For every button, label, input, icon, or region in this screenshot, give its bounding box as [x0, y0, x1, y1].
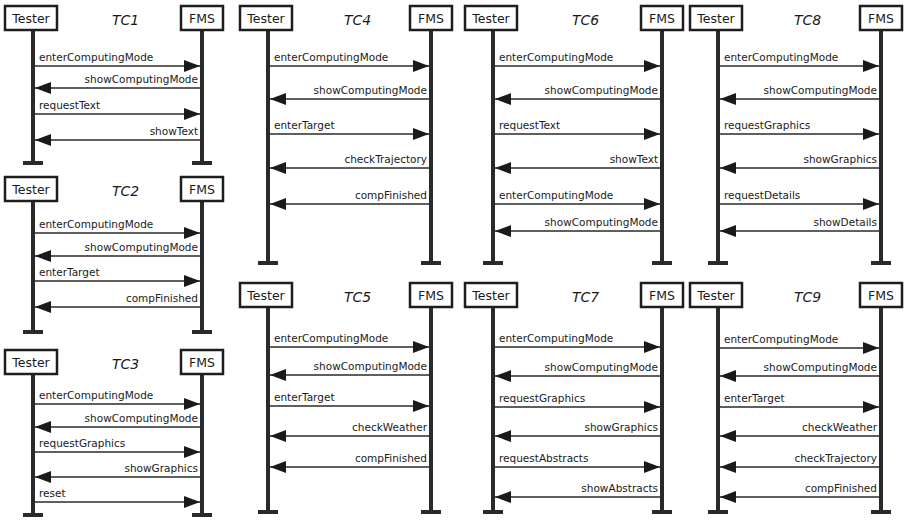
fms-participant-label: FMS — [189, 11, 215, 26]
arrowhead-right-icon — [644, 401, 660, 413]
message-label: showComputingMode — [85, 241, 198, 253]
message-label: enterComputingMode — [39, 218, 153, 230]
message-check-trajectory: checkTrajectory — [720, 452, 879, 473]
sequence-diagram-tc3: TesterFMSTC3enterComputingModeshowComput… — [5, 350, 223, 515]
message-label: requestDetails — [724, 189, 800, 201]
message-label: enterComputingMode — [499, 189, 613, 201]
sequence-diagram-tc1: TesterFMSTC1enterComputingModeshowComput… — [5, 6, 223, 163]
message-check-weather: checkWeather — [270, 421, 429, 442]
message-label: requestGraphics — [39, 437, 125, 449]
message-label: showComputingMode — [545, 84, 658, 96]
sequence-diagram-tc4: TesterFMSTC4enterComputingModeshowComput… — [240, 6, 452, 263]
arrowhead-right-icon — [863, 128, 879, 140]
message-check-weather: checkWeather — [720, 421, 879, 442]
arrowhead-right-icon — [644, 341, 660, 353]
fms-participant-label: FMS — [418, 11, 444, 26]
arrowhead-right-icon — [863, 198, 879, 210]
message-show-computing-mode: showComputingMode — [270, 84, 429, 105]
message-label: compFinished — [805, 482, 877, 494]
arrowhead-left-icon — [35, 82, 51, 94]
message-label: enterComputingMode — [39, 389, 153, 401]
arrowhead-right-icon — [644, 198, 660, 210]
message-label: showText — [610, 153, 658, 165]
diagram-title: TC7 — [572, 289, 599, 305]
message-enter-computing-mode: enterComputingMode — [495, 51, 660, 72]
diagram-title: TC5 — [344, 289, 371, 305]
tester-participant-label: Tester — [11, 11, 50, 26]
message-comp-finished: compFinished — [270, 452, 429, 473]
message-request-graphics: requestGraphics — [495, 392, 660, 413]
message-label: enterComputingMode — [39, 51, 153, 63]
message-show-text: showText — [35, 125, 200, 146]
fms-participant-label: FMS — [649, 288, 675, 303]
message-label: showGraphics — [803, 153, 877, 165]
message-label: compFinished — [355, 452, 427, 464]
arrowhead-right-icon — [184, 275, 200, 287]
message-label: compFinished — [126, 292, 198, 304]
arrowhead-right-icon — [184, 446, 200, 458]
message-label: enterTarget — [274, 119, 335, 131]
message-label: enterComputingMode — [724, 333, 838, 345]
diagram-title: TC4 — [344, 12, 371, 28]
tester-participant-label: Tester — [11, 182, 50, 197]
arrowhead-left-icon — [270, 461, 286, 473]
diagram-title: TC8 — [794, 12, 821, 28]
message-label: showComputingMode — [314, 360, 427, 372]
arrowhead-left-icon — [720, 461, 736, 473]
message-label: enterComputingMode — [499, 51, 613, 63]
arrowhead-left-icon — [35, 471, 51, 483]
sequence-diagram-tc2: TesterFMSTC2enterComputingModeshowComput… — [5, 177, 223, 332]
message-label: showComputingMode — [764, 84, 877, 96]
fms-participant-label: FMS — [868, 288, 894, 303]
message-label: showComputingMode — [314, 84, 427, 96]
arrowhead-left-icon — [35, 301, 51, 313]
message-enter-target: enterTarget — [720, 392, 879, 413]
message-show-graphics: showGraphics — [720, 153, 879, 174]
diagram-title: TC2 — [112, 183, 139, 199]
arrowhead-left-icon — [495, 370, 511, 382]
message-show-computing-mode: showComputingMode — [35, 73, 200, 94]
message-show-computing-mode: showComputingMode — [720, 84, 879, 105]
message-enter-computing-mode: enterComputingMode — [35, 51, 200, 72]
arrowhead-left-icon — [720, 430, 736, 442]
message-check-trajectory: checkTrajectory — [270, 153, 429, 174]
arrowhead-right-icon — [184, 227, 200, 239]
arrowhead-left-icon — [270, 430, 286, 442]
arrowhead-right-icon — [184, 108, 200, 120]
message-label: showText — [150, 125, 198, 137]
arrowhead-left-icon — [720, 491, 736, 503]
arrowhead-left-icon — [495, 491, 511, 503]
arrowhead-right-icon — [863, 60, 879, 72]
sequence-diagram-tc6: TesterFMSTC6enterComputingModeshowComput… — [465, 6, 683, 263]
sequence-diagram-tc7: TesterFMSTC7enterComputingModeshowComput… — [465, 283, 683, 512]
message-label: reset — [39, 487, 66, 499]
fms-participant-label: FMS — [868, 11, 894, 26]
arrowhead-left-icon — [270, 93, 286, 105]
arrowhead-right-icon — [413, 128, 429, 140]
message-label: enterComputingMode — [499, 332, 613, 344]
message-label: showComputingMode — [545, 361, 658, 373]
message-enter-computing-mode: enterComputingMode — [270, 51, 429, 72]
message-comp-finished: compFinished — [720, 482, 879, 503]
tester-participant-label: Tester — [696, 288, 735, 303]
arrowhead-right-icon — [413, 60, 429, 72]
message-comp-finished: compFinished — [35, 292, 200, 313]
message-label: showGraphics — [584, 421, 658, 433]
sequence-diagram-tc8: TesterFMSTC8enterComputingModeshowComput… — [690, 6, 902, 263]
message-label: enterTarget — [724, 392, 785, 404]
arrowhead-left-icon — [495, 162, 511, 174]
message-label: requestText — [499, 119, 560, 131]
message-label: showComputingMode — [85, 73, 198, 85]
message-show-computing-mode: showComputingMode — [495, 84, 660, 105]
tester-participant-label: Tester — [696, 11, 735, 26]
message-label: enterTarget — [274, 391, 335, 403]
message-enter-target: enterTarget — [35, 266, 200, 287]
message-label: enterComputingMode — [274, 332, 388, 344]
tester-participant-label: Tester — [246, 288, 285, 303]
arrowhead-left-icon — [35, 421, 51, 433]
message-enter-computing-mode: enterComputingMode — [35, 389, 200, 410]
arrowhead-right-icon — [184, 398, 200, 410]
arrowhead-left-icon — [720, 162, 736, 174]
message-enter-target: enterTarget — [270, 119, 429, 140]
arrowhead-left-icon — [720, 370, 736, 382]
